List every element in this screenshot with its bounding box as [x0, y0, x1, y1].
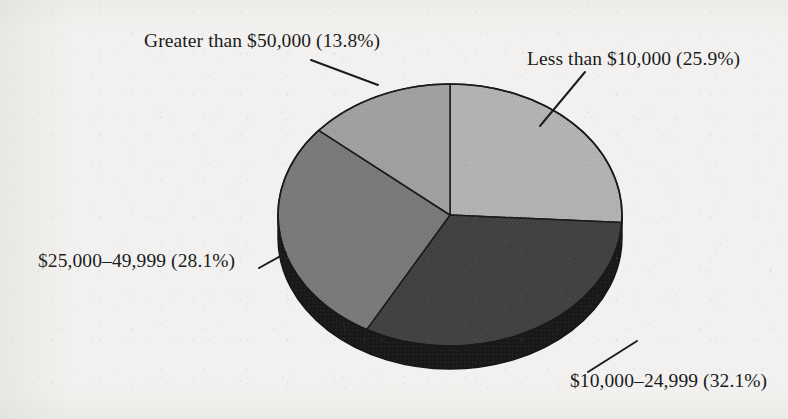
pie-label-25000-49999: $25,000–49,999 (28.1%) [38, 250, 235, 272]
leader-line-10000-24999 [588, 341, 637, 372]
pie-label-less-than-10000: Less than $10,000 (25.9%) [527, 48, 740, 70]
pie-top-face [278, 84, 622, 346]
leader-line-greater-than-50000 [311, 60, 378, 85]
pie-label-greater-than-50000: Greater than $50,000 (13.8%) [144, 30, 380, 52]
pie-slice-less-than-10000 [450, 84, 622, 223]
chart-page: Greater than $50,000 (13.8%) Less than $… [0, 0, 788, 419]
pie-label-10000-24999: $10,000–24,999 (32.1%) [570, 370, 767, 392]
